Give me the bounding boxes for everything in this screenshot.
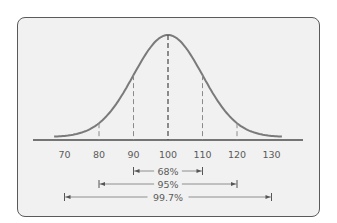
normal-distribution-chart: 708090100110120130 68%95%99.7% [0, 0, 337, 223]
interval-95: 95% [99, 179, 237, 190]
x-tick-label: 90 [127, 149, 139, 160]
x-tick-label: 70 [58, 149, 70, 160]
dashed-lines [99, 35, 237, 140]
x-tick-label: 130 [262, 149, 280, 160]
interval-label: 99.7% [153, 192, 183, 203]
x-tick-label: 100 [159, 149, 177, 160]
x-tick-label: 110 [193, 149, 211, 160]
tick-labels: 708090100110120130 [58, 149, 280, 160]
interval-997: 99.7% [65, 192, 272, 203]
interval-label: 68% [157, 166, 178, 177]
interval-68: 68% [134, 166, 203, 177]
interval-label: 95% [157, 179, 178, 190]
interval-brackets: 68%95%99.7% [65, 166, 272, 203]
x-tick-label: 120 [228, 149, 246, 160]
x-tick-label: 80 [93, 149, 105, 160]
